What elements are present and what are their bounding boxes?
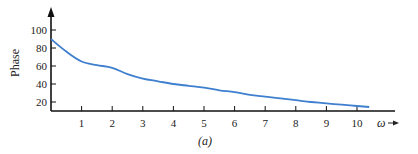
y-axis-title: Phase — [8, 49, 22, 77]
y-tick-label: 100 — [31, 24, 48, 36]
figure-caption: (a) — [198, 134, 212, 148]
y-tick-label: 20 — [36, 96, 48, 108]
x-axis-arrow-icon — [388, 121, 399, 126]
x-tick-label: 5 — [201, 117, 207, 129]
x-axis-title: ω — [377, 116, 385, 130]
phase-chart: 20406080100 12345678910 Phase ω (a) — [0, 0, 418, 154]
y-tick-label: 80 — [36, 42, 48, 54]
x-tick-label: 10 — [352, 117, 364, 129]
x-tick-label: 7 — [262, 117, 268, 129]
y-tick-label: 60 — [36, 60, 48, 72]
x-tick-label: 2 — [109, 117, 115, 129]
x-tick-label: 4 — [171, 117, 177, 129]
x-tick-label: 1 — [79, 117, 85, 129]
y-axis-arrow-icon — [48, 7, 55, 17]
x-tick-label: 6 — [232, 117, 238, 129]
phase-curve — [51, 39, 369, 107]
x-tick-label: 3 — [140, 117, 146, 129]
x-axis-ticks: 12345678910 — [79, 106, 363, 129]
y-tick-label: 40 — [36, 78, 48, 90]
x-tick-label: 9 — [324, 117, 330, 129]
y-axis-ticks: 20406080100 — [31, 24, 57, 108]
x-tick-label: 8 — [293, 117, 299, 129]
